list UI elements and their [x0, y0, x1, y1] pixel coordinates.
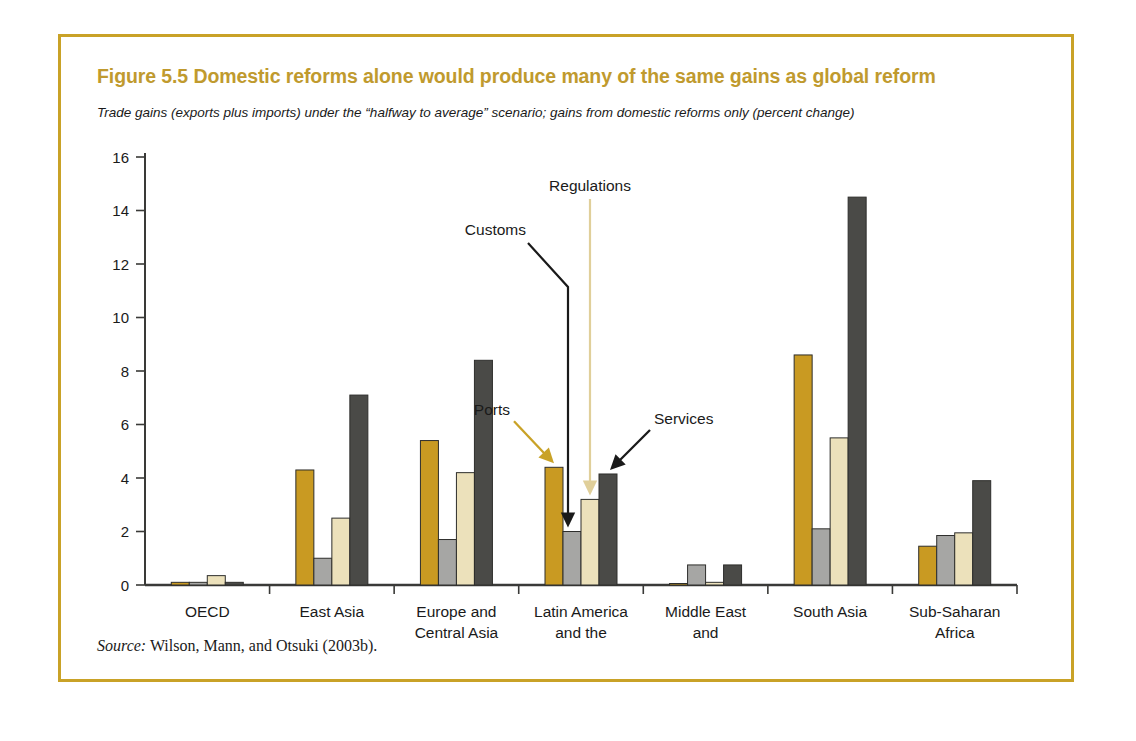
figure-title: Figure 5.5 Domestic reforms alone would … — [97, 65, 1037, 88]
bar — [474, 360, 492, 585]
bar — [314, 558, 332, 585]
figure-subtitle: Trade gains (exports plus imports) under… — [97, 103, 977, 123]
bar-series-group — [171, 197, 990, 585]
y-tick-label: 14 — [112, 202, 129, 219]
x-category-label: Central Asia — [415, 624, 499, 641]
x-category-label: Europe and — [416, 603, 496, 620]
annotation-regulations: Regulations — [549, 177, 631, 495]
bar — [919, 546, 937, 585]
bar — [812, 529, 830, 585]
figure-frame: Figure 5.5 Domestic reforms alone would … — [58, 34, 1074, 682]
annotation-label-ports: Ports — [474, 401, 510, 418]
source-citation: Wilson, Mann, and Otsuki (2003b). — [150, 637, 377, 654]
y-tick-label: 6 — [121, 416, 129, 433]
source-note: Source: Wilson, Mann, and Otsuki (2003b)… — [97, 637, 377, 655]
y-tick-label: 4 — [121, 470, 129, 487]
bar — [848, 197, 866, 585]
annotation-label-regulations: Regulations — [549, 177, 631, 194]
bar — [581, 499, 599, 585]
bar-group — [670, 565, 742, 585]
bar-group — [420, 360, 492, 585]
chart-annotations: PortsCustomsRegulationsServices — [465, 177, 714, 528]
bar-chart-svg: 0246810121416 OECDEast AsiaEurope andCen… — [97, 147, 1041, 647]
bar — [438, 540, 456, 585]
annotation-services: Services — [610, 410, 714, 470]
bar — [350, 395, 368, 585]
y-axis-tick-labels: 0246810121416 — [112, 149, 129, 594]
bar — [688, 565, 706, 585]
bar — [563, 532, 581, 586]
bar-group — [919, 481, 991, 585]
y-tick-label: 16 — [112, 149, 129, 166]
bar — [296, 470, 314, 585]
bar — [171, 582, 189, 585]
x-category-label: Latin America — [534, 603, 628, 620]
bar — [545, 467, 563, 585]
y-tick-label: 8 — [121, 363, 129, 380]
y-tick-label: 10 — [112, 309, 129, 326]
y-axis-ticks — [136, 157, 145, 585]
annotation-label-customs: Customs — [465, 221, 526, 238]
bar — [456, 473, 474, 585]
bar-group — [794, 197, 866, 585]
x-category-label: East Asia — [300, 603, 365, 620]
x-category-label: Africa — [935, 624, 975, 641]
annotation-arrowhead — [583, 480, 597, 495]
x-category-label: Middle East — [665, 603, 747, 620]
bar — [332, 518, 350, 585]
x-category-label: North Africa — [665, 645, 746, 647]
x-category-label: and the — [555, 624, 607, 641]
figure-page: Figure 5.5 Domestic reforms alone would … — [0, 0, 1136, 741]
bar-group — [171, 576, 243, 585]
source-label: Source: — [97, 637, 146, 654]
x-category-label: Caribbean — [545, 645, 617, 647]
bar — [724, 565, 742, 585]
x-axis-group-ticks — [270, 585, 1017, 594]
bar — [670, 584, 688, 586]
bar — [207, 576, 225, 585]
y-tick-label: 2 — [121, 523, 129, 540]
x-category-label: OECD — [185, 603, 230, 620]
bar — [794, 355, 812, 585]
bar — [955, 533, 973, 585]
bar-group — [296, 395, 368, 585]
x-category-label: and — [693, 624, 719, 641]
bar-group — [545, 467, 617, 585]
y-tick-label: 12 — [112, 256, 129, 273]
bar — [973, 481, 991, 585]
x-category-label: Sub-Saharan — [909, 603, 1000, 620]
bar — [420, 441, 438, 585]
bar — [706, 582, 724, 585]
x-category-label: South Asia — [793, 603, 867, 620]
bar — [599, 474, 617, 585]
y-tick-label: 0 — [121, 577, 129, 594]
bar — [225, 582, 243, 585]
bar — [189, 582, 207, 585]
bar — [830, 438, 848, 585]
chart-plot-area: 0246810121416 OECDEast AsiaEurope andCen… — [97, 147, 1041, 647]
bar — [937, 536, 955, 585]
annotation-label-services: Services — [654, 410, 714, 427]
